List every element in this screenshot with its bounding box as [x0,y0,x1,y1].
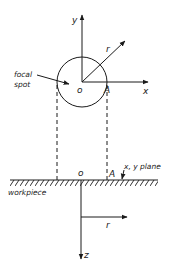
workpiece-hatching [10,180,158,186]
origin-label: o [77,85,83,95]
focal-spot-label-line2: spot [14,80,31,89]
radius-label: r [106,44,111,54]
xy-plane-label: x, y plane [123,162,161,171]
z-axis-label: z [83,250,89,260]
top-view: y x r o A focal spot [14,15,149,107]
y-axis-label: y [71,15,78,25]
xy-plane-pointer [122,170,124,179]
radius-arrow [82,41,125,82]
surface-origin-label: o [78,168,84,178]
focal-spot-pointer [37,75,69,84]
workpiece-label: workpiece [8,188,47,197]
side-view: o A x, y plane workpiece z r [8,162,161,260]
focal-spot-label-line1: focal [14,70,33,79]
diagram-canvas: y x r o A focal spot o [0,0,172,269]
x-axis-label: x [142,86,149,96]
side-radius-label: r [106,220,111,230]
diagram: y x r o A focal spot o [0,0,172,269]
surface-point-a-label: A [108,169,115,179]
